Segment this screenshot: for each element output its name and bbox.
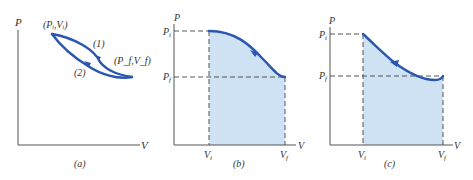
vi-tick-label: Vi [358,149,366,162]
initial-state-label: (Pᵢ,Vᵢ) [43,19,68,31]
pv-diagram-figure: P V (Pᵢ,Vᵢ) (P_f,V_f) (1) (2) (a) P V Pi… [0,0,473,180]
panel-a: P V (Pᵢ,Vᵢ) (P_f,V_f) (1) (2) (a) [14,16,152,170]
panel-b: P V Pi Pf Vi Vf (b) [162,12,306,170]
vf-tick-label: Vf [280,149,289,162]
path-1-label: (1) [93,38,105,50]
p-axis-label: P [173,12,180,23]
p-axis-label: P [14,16,22,28]
v-axis-label: V [141,139,149,151]
final-state-label: (P_f,V_f) [114,55,152,67]
pf-tick-label: Pf [162,71,172,84]
pf-tick-label: Pf [318,70,328,83]
vf-tick-label: Vf [438,149,447,162]
path-2-label: (2) [74,67,86,79]
work-area-shading [209,31,285,145]
caption-a: (a) [74,158,86,170]
work-area-shading [363,34,443,145]
pi-tick-label: Pi [162,26,171,39]
vi-tick-label: Vi [204,149,212,162]
panel-c: P V Pi Pf Vi Vf (c) [318,15,462,170]
caption-b: (b) [233,158,245,170]
caption-c: (c) [384,158,396,170]
v-axis-label: V [454,140,462,151]
pi-tick-label: Pi [318,29,327,42]
p-axis-label: P [328,15,335,26]
v-axis-label: V [298,140,306,151]
